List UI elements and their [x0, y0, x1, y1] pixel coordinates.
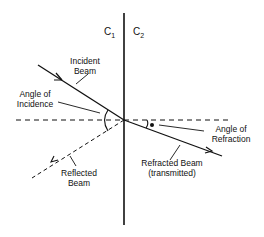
refracted-beam-label: Refracted Beam (transmitted)	[136, 158, 208, 178]
angle-of-incidence-leader	[58, 102, 100, 113]
angle-of-refraction-dot	[150, 123, 154, 127]
medium-c1-label: C1	[104, 26, 115, 39]
angle-of-incidence-label: Angle of Incidence	[12, 89, 58, 109]
angle-of-refraction-leader	[159, 125, 204, 131]
angle-of-refraction-arc	[146, 120, 148, 128]
medium-c2-label: C2	[133, 26, 144, 39]
angle-of-refraction-label: Angle of Refraction	[206, 124, 256, 144]
reflected-beam-leader	[70, 156, 76, 166]
reflected-beam-label: Reflected Beam	[56, 168, 102, 188]
incident-beam-label: Incident Beam	[60, 56, 110, 76]
refraction-diagram	[0, 0, 264, 237]
reflected-arrow-icon	[51, 156, 58, 162]
